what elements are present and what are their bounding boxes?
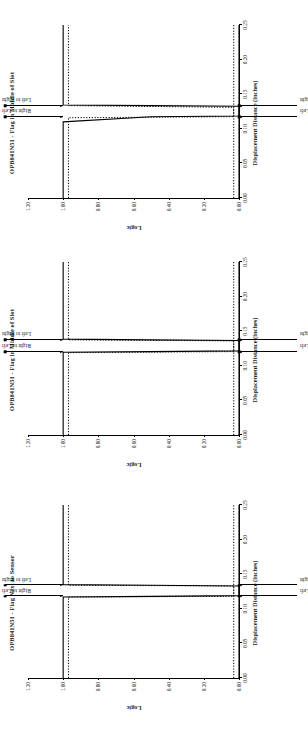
chart-2-annotation-leader [5, 339, 63, 340]
chart-2-series-right-to-left [63, 262, 239, 435]
chart-1-x-axis-title: Displacement Distance (inches) [251, 7, 258, 239]
chart-2-annotation-label: Right to Left [2, 343, 31, 349]
chart-panel-1: OPB841N51 - Flag in Middle of Slot 0.000… [0, 0, 308, 245]
chart-2-x-tick-label: 0.15 [242, 326, 248, 335]
chart-3-annotation-arrowhead [60, 584, 63, 586]
chart-1-x-tick-label: 0.10 [242, 124, 248, 133]
chart-3-x-tick-label: 0.10 [242, 604, 248, 613]
chart-3-annotation-arrowhead [60, 595, 63, 597]
chart-1-data-marker [4, 104, 7, 107]
chart-3-y-axis-title: Logic [126, 705, 141, 712]
chart-3-data-marker [238, 583, 241, 586]
figure-page: OPB841N51 - Flag in Middle of Slot 0.000… [0, 0, 308, 735]
chart-1-annotation-label: Right to Left [2, 108, 31, 114]
chart-3-y-tick-label: 1.00 [60, 682, 66, 714]
chart-1-y-tick-label: 0.80 [95, 202, 101, 234]
chart-2-y-tick-label: 0.00 [236, 439, 242, 471]
chart-3-y-tick-label: 0.80 [95, 682, 101, 714]
chart-1-series-right-to-left-dotted-overlay [68, 25, 233, 198]
chart-1-series-right-to-left [63, 25, 239, 198]
chart-2-annotation-leader [239, 350, 297, 351]
chart-1-annotation-label: Left to Right [300, 97, 308, 103]
chart-3-annotation-leader [239, 584, 297, 585]
chart-3-y-tick-label: 0.40 [166, 682, 172, 714]
chart-2-x-tick-label: 0.20 [242, 291, 248, 300]
chart-1-annotation-arrowhead [60, 104, 63, 106]
chart-3-y-tick-label: 1.20 [25, 682, 31, 714]
chart-3-title: OPB841N51 - Flag Next to Sensor [8, 487, 15, 719]
chart-1-annotation-label: Right to Left [300, 108, 308, 114]
chart-3-annotation-leader [5, 584, 63, 585]
chart-3-plot-area: 0.000.200.400.600.801.001.20Logic0.000.0… [28, 505, 240, 679]
chart-2-x-tick-label: 0.10 [242, 361, 248, 370]
chart-3-data-marker [4, 583, 7, 586]
chart-3-x-tick-label: 0.25 [242, 500, 248, 509]
chart-3-annotation-leader [239, 595, 297, 596]
chart-2-y-tick-label: 0.40 [166, 439, 172, 471]
chart-3-x-tick-label: 0.15 [242, 569, 248, 578]
chart-2-y-tick-label: 0.20 [201, 439, 207, 471]
chart-3-annotation-label: Right to Left [300, 587, 308, 593]
chart-2-annotation-label: Left to Right [300, 331, 308, 337]
chart-1-annotation-leader [239, 104, 297, 105]
chart-panel-3: OPB841N51 - Flag Next to Sensor 0.000.20… [0, 480, 308, 725]
chart-1-y-axis-title: Logic [126, 225, 141, 232]
chart-3-data-marker [238, 595, 241, 598]
chart-2-x-tick-label: 0.05 [242, 395, 248, 404]
chart-3-x-tick-label: 0.05 [242, 638, 248, 647]
chart-3-series-right-to-left [63, 505, 239, 678]
chart-3-data-marker [4, 595, 7, 598]
chart-1-y-tick-label: 1.00 [60, 202, 66, 234]
chart-3-traces [28, 505, 239, 678]
chart-1-title: OPB841N51 - Flag in Middle of Slot [8, 7, 15, 239]
chart-1-y-tick-label: 0.40 [166, 202, 172, 234]
chart-2-annotation-arrowhead [60, 338, 63, 340]
chart-2-canvas: OPB841N51 - Flag in Middle of Slot 0.000… [6, 244, 302, 476]
chart-1-y-tick-label: 0.20 [201, 202, 207, 234]
chart-2-x-tick-label: 0.25 [242, 257, 248, 266]
chart-2-annotation-label: Right to Left [300, 343, 308, 349]
chart-3-y-tick-label: 0.00 [236, 682, 242, 714]
chart-1-annotation-leader [5, 116, 63, 117]
chart-2-title: OPB841N51 - Flag in Middle of Slot [8, 244, 15, 476]
chart-3-annotation-leader [5, 595, 63, 596]
chart-1-annotation-arrowhead [60, 115, 63, 117]
chart-2-traces [28, 262, 239, 435]
chart-2-annotation-label: Left to Right [2, 331, 31, 337]
chart-3-x-tick-label: 0.00 [242, 673, 248, 682]
chart-1-y-tick-label: 0.00 [236, 202, 242, 234]
chart-3-annotation-label: Left to Right [300, 576, 308, 582]
chart-1-x-tick-label: 0.25 [242, 20, 248, 29]
chart-1-data-marker [238, 104, 241, 107]
chart-3-series-left-to-right-dotted-overlay [68, 505, 233, 678]
chart-2-y-tick-label: 1.20 [25, 439, 31, 471]
chart-2-x-axis-title: Displacement Distance (inches) [251, 244, 258, 476]
chart-2-y-tick-label: 1.00 [60, 439, 66, 471]
chart-1-x-tick-label: 0.20 [242, 54, 248, 63]
chart-2-annotation-leader [239, 339, 297, 340]
chart-2-x-tick-label: 0.00 [242, 430, 248, 439]
chart-2-data-marker [238, 338, 241, 341]
chart-2-plot-area: 0.000.200.400.600.801.001.20Logic0.000.0… [28, 262, 240, 436]
chart-3-annotation-label: Left to Right [2, 576, 31, 582]
chart-1-x-tick-label: 0.05 [242, 158, 248, 167]
chart-1-canvas: OPB841N51 - Flag in Middle of Slot 0.000… [6, 7, 302, 239]
chart-2-data-marker [4, 350, 7, 353]
chart-3-x-tick-label: 0.20 [242, 534, 248, 543]
chart-2-y-tick-label: 0.80 [95, 439, 101, 471]
chart-1-annotation-leader [5, 104, 63, 105]
chart-2-series-left-to-right-dotted-overlay [68, 262, 233, 435]
chart-1-x-tick-label: 0.15 [242, 89, 248, 98]
chart-3-series-right-to-left-dotted-overlay [68, 505, 233, 678]
chart-1-data-marker [4, 115, 7, 118]
chart-2-annotation-arrowhead [60, 350, 63, 352]
chart-2-series-left-to-right [63, 262, 239, 435]
chart-1-series-left-to-right-dotted-overlay [68, 25, 233, 198]
chart-1-data-marker [238, 115, 241, 118]
chart-1-x-tick-label: 0.00 [242, 193, 248, 202]
chart-3-x-axis-title: Displacement Distance (inches) [251, 487, 258, 719]
chart-1-annotation-leader [239, 116, 297, 117]
chart-2-data-marker [238, 350, 241, 353]
chart-2-annotation-leader [5, 350, 63, 351]
chart-1-annotation-label: Left to Right [2, 97, 31, 103]
